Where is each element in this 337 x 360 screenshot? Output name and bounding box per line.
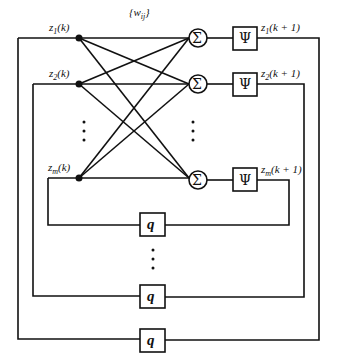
feedback-loop-m [165, 180, 289, 225]
activation-m: Ψ [233, 168, 257, 191]
delay-m: q [140, 213, 165, 236]
svg-text:q: q [147, 288, 155, 304]
input-node-1 [76, 35, 83, 42]
svg-text:Σ: Σ [192, 30, 202, 46]
svg-text:Ψ: Ψ [239, 30, 251, 46]
output-label-1: z1(k + 1) [260, 21, 300, 36]
delay-2: q [140, 285, 165, 308]
svg-text:Σ: Σ [192, 76, 202, 92]
svg-text:q: q [147, 216, 155, 232]
svg-text:Σ: Σ [192, 172, 202, 188]
input-ellipsis [83, 121, 86, 142]
input-node-2 [76, 81, 83, 88]
feedback-loop-m-left [48, 178, 140, 225]
input-node-m [76, 175, 83, 182]
summer-2: Σ [189, 75, 207, 93]
recurrent-network-diagram: {wij} z1(k) z2(k) zm(k) Σ Σ Σ [0, 0, 337, 360]
output-label-m: zm(k + 1) [260, 163, 302, 178]
cross-weights [79, 38, 189, 178]
activation-2: Ψ [233, 73, 257, 96]
summer-1: Σ [189, 29, 207, 47]
svg-text:q: q [147, 332, 155, 348]
feedback-loop-2-left [33, 84, 140, 296]
output-label-2: z2(k + 1) [260, 67, 300, 82]
svg-text:Ψ: Ψ [239, 172, 251, 188]
input-label-2: z2(k) [48, 67, 70, 82]
input-label-m: zm(k) [47, 161, 71, 176]
delay-1: q [140, 329, 165, 352]
activation-1: Ψ [233, 27, 257, 50]
summer-ellipsis [192, 121, 195, 142]
svg-text:Ψ: Ψ [239, 76, 251, 92]
weights-label: {wij} [129, 6, 150, 21]
input-label-1: z1(k) [48, 21, 70, 36]
delay-ellipsis [152, 249, 155, 270]
summer-m: Σ [189, 171, 207, 189]
